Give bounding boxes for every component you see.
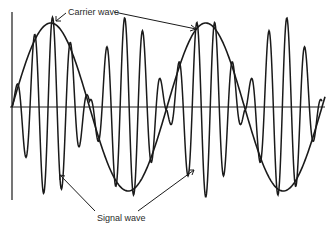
signal-arrow-left (60, 175, 95, 211)
signal-wave-label: Signal wave (97, 214, 146, 223)
carrier-wave-label: Carrier wave (68, 8, 119, 17)
carrier-arrow-left (56, 13, 66, 21)
am-wave-diagram (0, 0, 336, 227)
signal-arrow-right (138, 170, 194, 211)
